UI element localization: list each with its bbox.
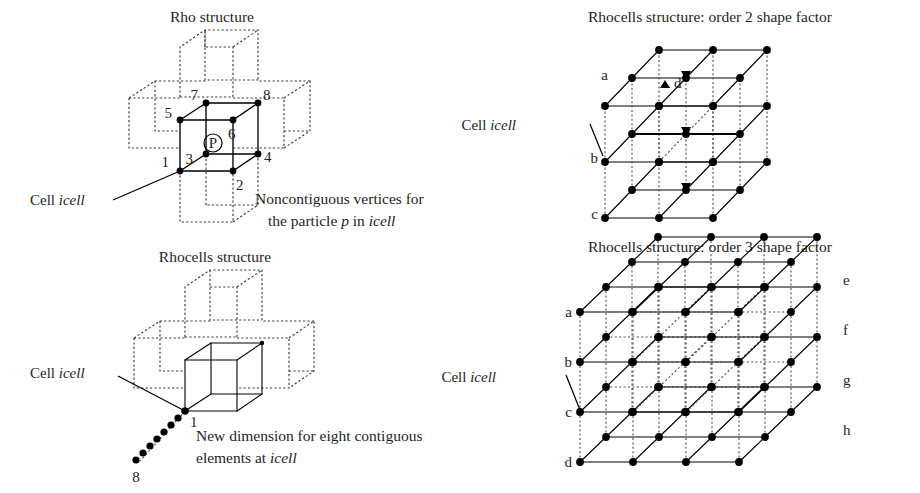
rho-title: Rho structure	[170, 8, 254, 25]
rho-vertex-label-3: 3	[186, 151, 194, 167]
order2-label-c: c	[591, 206, 598, 222]
rhocells-chain-end-label: 8	[132, 469, 140, 485]
order3-lattice	[576, 233, 821, 466]
rho-caption-line2: the particle p in icell	[268, 212, 395, 229]
rho-vertex-label-2: 2	[236, 177, 244, 193]
rhocells-cell-leader-line	[118, 376, 185, 411]
order2-label-d: d	[674, 75, 682, 91]
rhocells-cell-label: Cell icell	[30, 365, 85, 381]
order3-label-a: a	[565, 304, 572, 320]
panel-rho: Rho structure	[30, 8, 425, 229]
rho-vertex-3	[203, 151, 210, 158]
order3-label-c: c	[565, 404, 572, 420]
rho-vertex-4	[255, 151, 262, 158]
panel-rhocells: Rhocells structure	[30, 248, 422, 485]
rhocells-title: Rhocells structure	[159, 248, 271, 265]
panel-order3: Rhocells structure: order 3 shape factor…	[441, 233, 851, 470]
rhocells-caption-line1: New dimension for eight contiguous	[196, 427, 422, 444]
rhocells-caption-line2: elements at icell	[196, 449, 297, 466]
order3-label-d: d	[565, 454, 573, 470]
rhocells-neighbor-cells	[134, 270, 314, 388]
rho-vertex-label-1: 1	[162, 154, 170, 170]
order3-label-e: e	[843, 272, 850, 288]
order3-label-f: f	[843, 322, 848, 338]
order2-label-b: b	[591, 150, 599, 166]
rhocells-vertex-far	[260, 341, 264, 345]
rho-vertex-label-8: 8	[263, 87, 271, 103]
rho-vertex-label-7: 7	[191, 87, 199, 103]
rho-vertex-6	[230, 117, 237, 124]
rho-caption-line1: Noncontiguous vertices for	[255, 190, 425, 207]
order3-cell-label: Cell icell	[441, 369, 496, 385]
order2-marker-triangle-d	[660, 80, 670, 88]
order2-cell-label: Cell icell	[461, 117, 516, 133]
order3-label-h: h	[843, 422, 851, 438]
rhocells-cell-cube	[181, 341, 264, 415]
rho-cell-label: Cell icell	[30, 192, 85, 208]
rho-vertex-8	[255, 100, 262, 107]
rhocells-chain-dots	[132, 407, 188, 463]
order3-label-b: b	[565, 354, 573, 370]
figure-canvas: Rho structure	[0, 0, 920, 493]
order2-lattice	[601, 46, 771, 222]
rho-cell-leader-line	[113, 171, 180, 200]
rho-vertex-label-6: 6	[228, 126, 236, 142]
rho-vertex-7	[203, 100, 210, 107]
rho-vertex-5	[177, 117, 184, 124]
rho-particle-label: P	[209, 135, 217, 151]
figure-svg: Rho structure	[0, 0, 920, 493]
rho-vertex-2	[230, 168, 237, 175]
order2-label-a: a	[601, 67, 608, 83]
rho-vertex-label-5: 5	[165, 105, 173, 121]
order2-title: Rhocells structure: order 2 shape factor	[588, 8, 833, 25]
panel-order2: Rhocells structure: order 2 shape factor…	[461, 8, 832, 222]
rho-vertex-label-4: 4	[264, 149, 272, 165]
order3-label-g: g	[843, 372, 851, 388]
